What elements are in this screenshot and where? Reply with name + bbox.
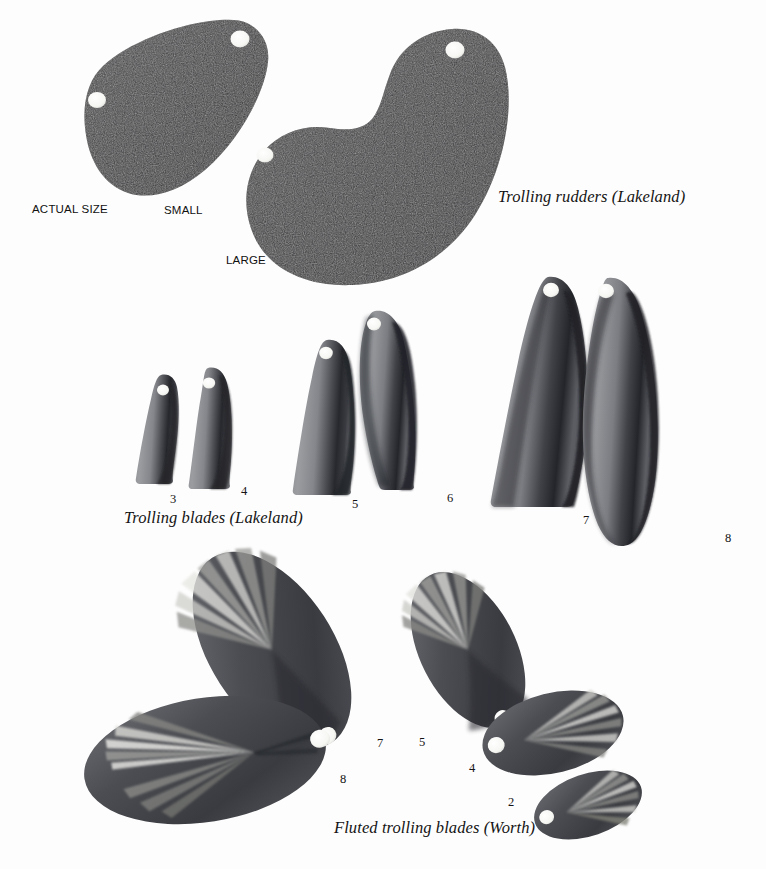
fluted-blade-number-5: 5 bbox=[419, 735, 425, 750]
blade-number-3: 3 bbox=[170, 492, 176, 507]
blade-number-8: 8 bbox=[725, 531, 731, 546]
fluted-blade-number-4: 4 bbox=[469, 761, 475, 776]
caption-fluted-trolling-blades: Fluted trolling blades (Worth) bbox=[334, 818, 535, 838]
scale-note-actual-size: ACTUAL SIZE bbox=[32, 203, 108, 215]
blade-number-5: 5 bbox=[352, 497, 358, 512]
fluted-blade-number-8: 8 bbox=[340, 772, 346, 787]
blade-number-6: 6 bbox=[447, 491, 453, 506]
caption-trolling-rudders: Trolling rudders (Lakeland) bbox=[498, 187, 685, 207]
rudder-label-large: LARGE bbox=[226, 254, 266, 266]
caption-trolling-blades: Trolling blades (Lakeland) bbox=[124, 508, 303, 528]
blade-number-7: 7 bbox=[583, 513, 589, 528]
fluted-blade-number-7: 7 bbox=[377, 736, 383, 751]
blade-number-4: 4 bbox=[241, 484, 247, 499]
rudder-label-small: SMALL bbox=[164, 204, 203, 216]
fluted-blade-number-2: 2 bbox=[508, 795, 514, 810]
illustration-plate: ACTUAL SIZE SMALL LARGE Trolling rudders… bbox=[0, 0, 766, 869]
